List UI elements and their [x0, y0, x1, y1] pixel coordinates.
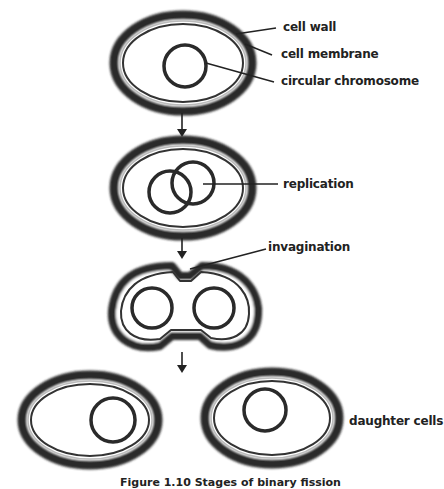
arrow-down-icon — [177, 238, 187, 259]
arrow-down-icon — [177, 113, 187, 137]
label-daughter-cells: daughter cells — [349, 414, 443, 428]
daughter-cell-left — [22, 375, 158, 465]
stage-3-invagination — [112, 266, 258, 347]
figure-caption: Figure 1.10 Stages of binary fission — [120, 476, 341, 489]
arrow-down-icon — [177, 352, 187, 373]
stage-2-replication — [114, 140, 252, 236]
daughter-cell-right — [205, 372, 339, 464]
label-circular-chromosome: circular chromosome — [281, 74, 419, 88]
label-invagination: invagination — [268, 240, 350, 254]
stage-1-cell — [114, 15, 252, 111]
label-cell-wall: cell wall — [283, 20, 336, 34]
label-cell-membrane: cell membrane — [281, 47, 379, 61]
label-replication: replication — [283, 177, 354, 191]
